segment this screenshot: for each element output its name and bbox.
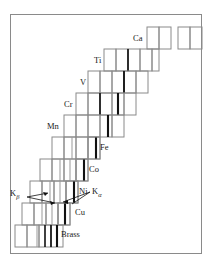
spectra-staircase-plot: [0, 0, 212, 264]
element-label-ca: Ca: [133, 34, 142, 43]
element-label-co: Co: [89, 165, 99, 174]
row-cr: [76, 93, 136, 115]
row-ca: [147, 27, 202, 49]
figure-container: Ca Ti V Cr Mn Fe Co Ni Cu Brass Kβ Kα: [0, 0, 212, 264]
element-label-cu: Cu: [75, 208, 85, 217]
row-mn: [64, 115, 124, 137]
row-v: [88, 71, 148, 93]
row-ni: [30, 181, 78, 203]
element-label-brass: Brass: [61, 230, 80, 239]
row-fe: [52, 137, 100, 159]
element-label-mn: Mn: [47, 122, 59, 131]
element-label-ti: Ti: [94, 56, 101, 65]
k-alpha-subscript: α: [98, 191, 101, 198]
row-brass: [15, 225, 63, 247]
row-cu: [22, 203, 70, 225]
element-label-cr: Cr: [64, 100, 73, 109]
k-beta-subscript: β: [16, 193, 19, 200]
element-label-v: V: [80, 78, 86, 87]
element-label-fe: Fe: [100, 143, 109, 152]
element-label-ni: Ni: [79, 187, 88, 196]
k-alpha-label: Kα: [92, 187, 102, 198]
k-beta-label: Kβ: [10, 189, 19, 200]
row-ti: [104, 49, 159, 71]
row-co: [40, 159, 88, 181]
